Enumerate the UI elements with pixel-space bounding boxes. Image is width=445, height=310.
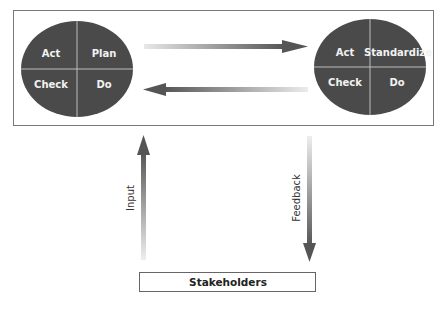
- stakeholders-box: Stakeholders: [140, 273, 316, 292]
- sdca-act-label: Act: [336, 47, 355, 58]
- sdca-check-label: Check: [328, 77, 362, 88]
- pdca-plan-label: Plan: [92, 48, 117, 59]
- feedback-arrow-icon: [303, 136, 316, 262]
- stakeholders-label: Stakeholders: [189, 276, 267, 288]
- input-arrow-icon: [137, 135, 150, 260]
- pdca-sdca-diagram: Act Plan Check Do Act Standardize Check …: [0, 0, 445, 310]
- pdca-cycle: Act Plan Check Do: [21, 21, 133, 117]
- pdca-act-label: Act: [42, 48, 61, 59]
- feedback-label: Feedback: [291, 174, 302, 222]
- sdca-do-label: Do: [389, 77, 404, 88]
- pdca-do-label: Do: [96, 79, 111, 90]
- pdca-check-label: Check: [34, 79, 68, 90]
- input-label: Input: [125, 185, 136, 211]
- sdca-standardize-label: Standardize: [364, 47, 432, 58]
